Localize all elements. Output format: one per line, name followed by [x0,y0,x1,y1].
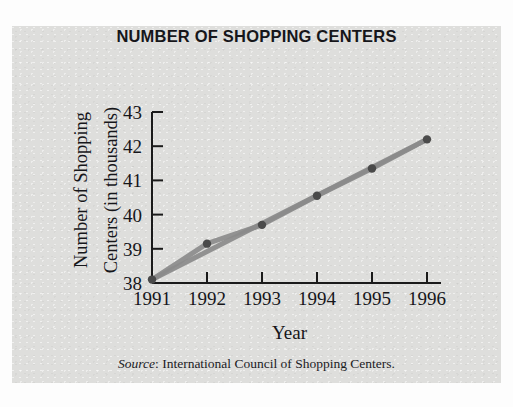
source-note-label: Source [118,356,155,371]
scanned-page: NUMBER OF SHOPPING CENTERS Number of Sho… [0,0,513,407]
x-tick-label: 1994 [287,289,347,308]
x-axis-tick-labels: 199119921993199419951996 [0,289,513,315]
x-tick-label: 1992 [177,289,237,308]
x-tick-label: 1993 [232,289,292,308]
y-axis-title: Number of Shopping Centers (in thousands… [36,84,98,296]
x-tick-label: 1995 [342,289,402,308]
source-note: Source: International Council of Shoppin… [0,356,513,372]
x-tick-label: 1996 [397,289,457,308]
data-point-marker [313,192,321,200]
page-title: NUMBER OF SHOPPING CENTERS [0,27,513,46]
data-point-marker [368,164,376,172]
data-point-marker [258,221,266,229]
line-chart-svg [130,102,450,302]
plot-area [152,108,427,285]
data-point-marker [148,275,156,283]
data-point-marker [203,239,211,247]
x-tick-label: 1991 [122,289,182,308]
source-note-text: : International Council of Shopping Cent… [155,356,395,371]
x-axis-title: Year [152,322,427,344]
data-point-marker [423,135,431,143]
